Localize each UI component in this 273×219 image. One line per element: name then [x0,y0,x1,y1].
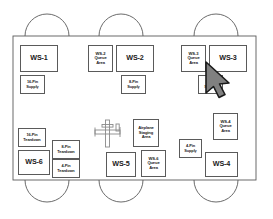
area-box-label: WS-2 [126,54,144,62]
diagram-linework [0,0,273,219]
bay-arc-top-3 [194,14,238,36]
area-box-label: 4-Pin Teardown [57,164,74,173]
area-box-label: WS-6 Queue Area [147,157,159,171]
area-box-ws-3[interactable]: WS-3 [209,45,247,72]
area-box-label: WS-5 [112,160,130,168]
area-box-4-pin-teardown[interactable]: 4-Pin Teardown [52,159,80,178]
area-box-label: WS-6 [25,158,43,166]
area-box-16-pin-supply[interactable]: 16-Pin Supply [20,75,45,94]
floor-plan-diagram: WS-1WS-2 Queue AreaWS-2WS-3 Queue AreaWS… [0,0,273,219]
area-box-label: WS-4 Queue Area [219,120,231,134]
area-box-ws-6-queue-area[interactable]: WS-6 Queue Area [141,150,166,177]
area-box-label: 16-Pin Teardown [23,133,40,142]
area-box-label: WS-3 [219,54,237,62]
area-box-ws-2-queue-area[interactable]: WS-2 Queue Area [88,45,113,72]
area-box-label: 8-Pin Teardown [57,145,74,154]
area-box-label: Airplane Staging Area [138,126,154,140]
bay-arc-bottom-2 [99,180,143,202]
area-box-label: 4-Pin Supply [184,144,196,153]
area-box-label: WS-1 [30,54,48,62]
area-box-label: WS-3 Queue Area [187,52,199,66]
area-box-label: WS-4 [213,160,231,168]
area-box-ws-5[interactable]: WS-5 [106,152,136,177]
area-box-4-pin-supply[interactable]: 4-Pin Supply [179,139,202,158]
bay-arc-bottom-1 [25,180,69,202]
area-box-8-pin-supply-right[interactable]: 8-Pin Supply [198,75,223,94]
area-box-label: 8-Pin Supply [127,80,139,89]
area-box-16-pin-teardown[interactable]: 16-Pin Teardown [18,128,46,147]
area-box-ws-2[interactable]: WS-2 [116,45,154,72]
area-box-label: 16-Pin Supply [26,80,38,89]
area-box-ws-4-queue-area[interactable]: WS-4 Queue Area [213,113,238,140]
area-box-airplane-staging[interactable]: Airplane Staging Area [133,119,159,147]
area-box-label: WS-2 Queue Area [94,52,106,66]
area-box-ws-6[interactable]: WS-6 [18,150,50,175]
bay-arc-top-1 [25,14,69,36]
area-box-ws-3-queue-area[interactable]: WS-3 Queue Area [181,45,206,72]
area-box-8-pin-supply-top[interactable]: 8-Pin Supply [121,75,146,94]
area-box-ws-1[interactable]: WS-1 [20,45,58,72]
area-box-ws-4[interactable]: WS-4 [205,152,238,177]
area-box-label: 8-Pin Supply [204,80,216,89]
area-box-8-pin-teardown[interactable]: 8-Pin Teardown [52,140,80,159]
bay-arc-top-2 [99,14,143,36]
bay-arc-bottom-3 [194,180,238,202]
